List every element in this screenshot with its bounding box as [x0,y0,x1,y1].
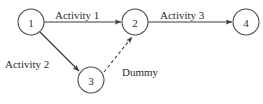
edge-activity-1: Activity 1 [44,9,121,22]
node-1-label: 1 [28,17,34,29]
edge-activity-2: Activity 2 [5,32,79,71]
node-3: 3 [78,67,104,93]
edge-label-activity-1: Activity 1 [55,9,99,21]
edge-label-activity-2: Activity 2 [5,58,49,70]
node-4-label: 4 [243,17,249,29]
node-2: 2 [122,9,148,35]
edge-activity-3: Activity 3 [148,9,232,22]
network-canvas: Activity 1 Activity 3 Activity 2 Dummy 1… [0,0,263,104]
node-1: 1 [18,9,44,35]
activity-network-diagram: Activity 1 Activity 3 Activity 2 Dummy 1… [0,0,263,104]
node-3-label: 3 [88,75,94,87]
node-4: 4 [233,9,259,35]
edge-dummy: Dummy [104,37,159,78]
edge-label-activity-3: Activity 3 [160,9,205,21]
node-2-label: 2 [132,17,138,29]
edge-label-dummy: Dummy [122,66,159,78]
